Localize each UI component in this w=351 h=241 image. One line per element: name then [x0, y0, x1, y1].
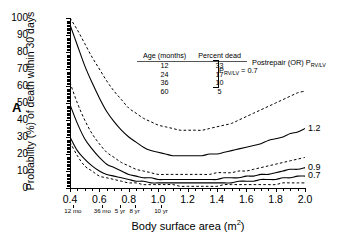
x-tick	[129, 188, 130, 192]
x-tick-label: 1.6	[239, 193, 254, 205]
x-tick	[246, 188, 247, 192]
postrepair-main: Postrepair (OR) P	[252, 58, 311, 67]
x-minor-tick	[232, 188, 233, 191]
x-minor-tick	[77, 188, 78, 191]
postrepair-annotation: Postrepair (OR) PRV/LV	[252, 58, 326, 68]
x-tick	[158, 188, 159, 192]
age-tick-label: 8 yr	[129, 207, 139, 214]
x-minor-tick	[143, 188, 144, 191]
x-tick-label: 1.2	[180, 193, 195, 205]
x-minor-tick	[173, 188, 174, 191]
x-tick-label: 1.0	[151, 193, 166, 205]
y-tick-label: 90	[4, 29, 28, 40]
y-axis-ticks: 0102030405060708090100	[0, 0, 70, 241]
x-minor-tick	[180, 188, 181, 191]
curve-prv-lv-0-7-solid	[70, 137, 305, 183]
x-minor-tick	[165, 188, 166, 191]
plot-area	[70, 18, 305, 188]
x-minor-tick	[202, 188, 203, 191]
y-tick-label: 10	[4, 165, 28, 176]
legend-age: 60	[137, 88, 192, 96]
legend-percent-dead: 5	[192, 88, 247, 96]
x-minor-tick	[290, 188, 291, 191]
y-tick-label: 70	[4, 63, 28, 74]
x-minor-tick	[136, 188, 137, 191]
age-tick-label: 5 yr	[115, 207, 125, 214]
postrepair-sub: RV/LV	[311, 62, 326, 68]
legend-row: 3610	[137, 79, 247, 87]
age-tick-label: 12 mo	[64, 207, 81, 214]
x-tick	[70, 188, 71, 192]
x-tick-label: 1.8	[268, 193, 283, 205]
x-minor-tick	[85, 188, 86, 191]
y-tick-label: 30	[4, 131, 28, 142]
legend-col2-header: Percent dead	[192, 52, 247, 62]
x-axis-title-tail: )	[241, 220, 245, 232]
chart-figure: A Probability (%) of death within 30 day…	[0, 0, 351, 241]
x-minor-tick	[210, 188, 211, 191]
y-tick-label: 50	[4, 97, 28, 108]
y-tick-label: 100	[4, 12, 28, 23]
age-tick-label: 10 yr	[154, 207, 168, 214]
y-tick-label: 80	[4, 46, 28, 57]
x-tick	[217, 188, 218, 192]
x-axis-title: Body surface area (m2)	[70, 218, 306, 232]
x-tick	[188, 188, 189, 192]
x-tick	[99, 188, 100, 192]
x-minor-tick	[224, 188, 225, 191]
y-tick-label: 40	[4, 114, 28, 125]
x-minor-tick	[195, 188, 196, 191]
x-tick	[305, 188, 306, 192]
x-minor-tick	[114, 188, 115, 191]
x-tick-label: 0.4	[63, 193, 78, 205]
x-minor-tick	[298, 188, 299, 191]
x-tick-label: 0.8	[121, 193, 136, 205]
x-minor-tick	[107, 188, 108, 191]
curve-label-1-2: 1.2	[308, 123, 321, 133]
brace-sub: RV/LV	[224, 70, 239, 76]
x-axis-title-text: Body surface area (m	[132, 220, 237, 232]
x-tick-label: 2.0	[298, 193, 313, 205]
x-minor-tick	[121, 188, 122, 191]
y-tick-label: 0	[4, 182, 28, 193]
x-minor-tick	[254, 188, 255, 191]
x-minor-tick	[239, 188, 240, 191]
legend-col1-header: Age (months)	[137, 52, 192, 62]
x-minor-tick	[151, 188, 152, 191]
x-tick-label: 1.4	[210, 193, 225, 205]
curve-prv-lv-0-9-solid	[70, 105, 305, 180]
x-minor-tick	[283, 188, 284, 191]
x-minor-tick	[261, 188, 262, 191]
x-minor-tick	[92, 188, 93, 191]
age-tick-label: 36 mo	[94, 207, 111, 214]
x-minor-tick	[268, 188, 269, 191]
x-tick	[276, 188, 277, 192]
legend-row: 605	[137, 88, 247, 96]
y-tick-label: 60	[4, 80, 28, 91]
curve-label-0-7: 0.7	[308, 170, 321, 180]
x-tick-label: 0.6	[92, 193, 107, 205]
y-tick-label: 20	[4, 148, 28, 159]
